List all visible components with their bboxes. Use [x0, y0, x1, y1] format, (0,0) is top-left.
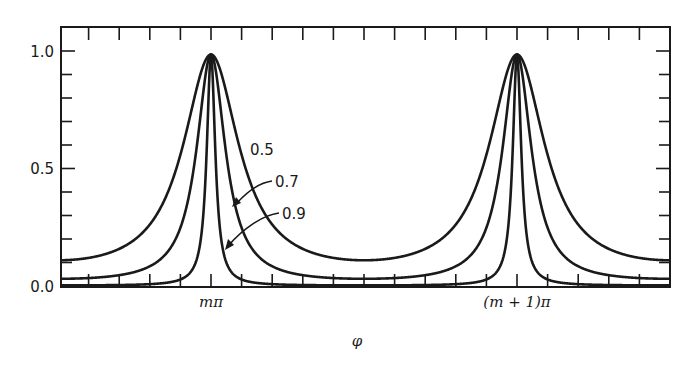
x-tick-label-m-pi: mπ: [199, 293, 224, 311]
curve-r-07: [62, 55, 669, 279]
curve-r-09: [62, 55, 669, 286]
axis-ticks: [61, 27, 670, 287]
y-tick-label-1: 1.0: [30, 43, 54, 61]
curve-label-05: 0.5: [250, 141, 274, 159]
airy-function-chart: 1.0 0.5 0.0 mπ (m + 1)π φ 0.5 0.7 0.9: [0, 0, 690, 367]
curve-label-07: 0.7: [275, 173, 299, 191]
y-tick-label-0: 0.0: [30, 278, 54, 296]
plot-frame: [61, 27, 670, 287]
curve-r-05: [62, 55, 669, 261]
x-axis-label-phi: φ: [352, 332, 363, 350]
curve-annotations: 0.5 0.7 0.9: [225, 141, 306, 250]
curves: [62, 55, 669, 286]
y-tick-label-05: 0.5: [30, 160, 54, 178]
curve-label-09: 0.9: [282, 205, 306, 223]
arrow-09: [229, 213, 279, 245]
x-tick-label-m1-pi: (m + 1)π: [483, 293, 552, 311]
